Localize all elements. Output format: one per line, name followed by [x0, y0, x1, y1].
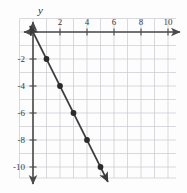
data-point [98, 164, 104, 170]
y-axis-label: y [37, 4, 43, 16]
coordinate-plane-svg: y 2 4 6 8 10 -2 -4 -6 -8 -10 [0, 0, 187, 193]
data-point [57, 83, 63, 89]
y-tick-label-neg2: -2 [18, 54, 26, 64]
data-line [31, 29, 108, 182]
grid-lines [20, 19, 177, 179]
y-tick-label-neg4: -4 [18, 81, 26, 91]
x-axis [24, 29, 180, 36]
y-tick-label-neg6: -6 [18, 108, 26, 118]
y-tick-label-neg10: -10 [13, 162, 25, 172]
x-tick-label-10: 10 [164, 17, 174, 27]
x-tick-label-8: 8 [139, 17, 144, 27]
x-tick-label-4: 4 [85, 17, 90, 27]
y-tick-label-neg8: -8 [18, 135, 26, 145]
x-tick-label-6: 6 [112, 17, 117, 27]
data-line-group [30, 26, 108, 182]
data-point [71, 110, 77, 116]
x-tick-label-2: 2 [58, 17, 63, 27]
data-point [44, 56, 50, 62]
y-axis [30, 22, 37, 184]
graph-container: y 2 4 6 8 10 -2 -4 -6 -8 -10 [0, 0, 187, 193]
data-point [84, 137, 90, 143]
